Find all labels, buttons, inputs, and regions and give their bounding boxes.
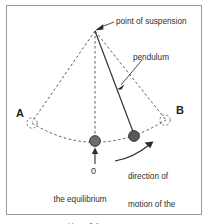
bob-at-equilibrium [90,136,101,147]
label-extreme-position-a: A [16,107,24,119]
dashed-string-left [32,31,95,122]
label-extreme-position-b: B [176,104,184,116]
pendulum-figure: point of suspension pendulum A B 0 the e… [0,0,210,224]
pendulum-bob [129,131,140,142]
ghost-bob-right [160,115,170,125]
label-direction-caption: direction of motion of the pendulum bob [128,154,180,224]
arrowhead-pendulum [117,84,125,89]
label-equilibrium-line-2: position of the [27,223,133,224]
pendulum-rod [95,31,134,133]
arrowhead-point-of-suspension [95,24,103,30]
leader-line-pendulum [121,60,142,85]
label-equilibrium-line-1: the equilibrium [27,195,133,204]
arrowhead-equilibrium [92,148,98,155]
ghost-bob-left [27,118,37,128]
label-direction-line-2: motion of the [128,200,180,209]
label-equilibrium-marker: 0 [91,166,96,176]
label-equilibrium-caption: the equilibrium position of the pendulum [27,177,133,224]
label-point-of-suspension: point of suspension [116,17,187,26]
label-pendulum: pendulum [133,53,169,62]
label-direction-line-1: direction of [128,172,180,181]
dashed-string-right [95,31,166,120]
